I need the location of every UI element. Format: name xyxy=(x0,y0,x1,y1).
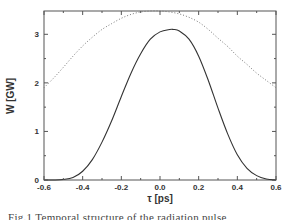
x-tick-label: -0.6 xyxy=(37,183,51,192)
y-axis-label: W [GW] xyxy=(5,78,16,114)
y-tick-label: 0 xyxy=(35,176,40,185)
dotted-series-line xyxy=(44,11,276,88)
y-tick-label: 2 xyxy=(35,79,40,88)
x-tick-label: 0.6 xyxy=(270,183,282,192)
y-tick-label: 3 xyxy=(35,30,40,39)
y-tick-label: 1 xyxy=(35,127,40,136)
plot-border xyxy=(44,11,276,180)
y-axis: 0123 xyxy=(35,30,276,185)
x-tick-label: 0.0 xyxy=(154,183,166,192)
figure-caption: Fig.1 Temporal structure of the radiatio… xyxy=(8,211,227,220)
series-layer xyxy=(44,11,276,180)
x-tick-label: 0.2 xyxy=(193,183,205,192)
x-axis-label: τ [ps] xyxy=(147,193,173,204)
x-axis: -0.6-0.4-0.20.00.20.40.6 xyxy=(37,11,282,192)
solid-series-line xyxy=(44,29,276,180)
x-tick-label: 0.4 xyxy=(232,183,244,192)
x-tick-label: -0.4 xyxy=(76,183,90,192)
plot-frame xyxy=(44,11,276,180)
line-chart: -0.6-0.4-0.20.00.20.40.6 0123 τ [ps] W [… xyxy=(0,0,291,220)
x-tick-label: -0.2 xyxy=(114,183,128,192)
